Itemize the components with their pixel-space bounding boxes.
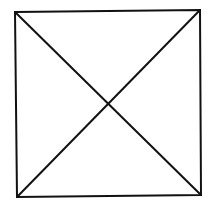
diagonal-top-right-to-bottom-left bbox=[17, 10, 200, 197]
diagram-canvas bbox=[0, 0, 213, 207]
square-with-diagonals bbox=[0, 0, 213, 207]
